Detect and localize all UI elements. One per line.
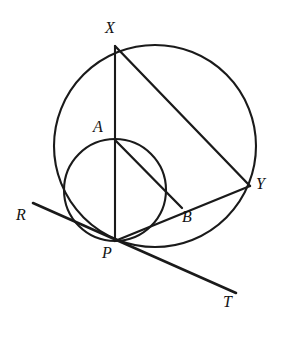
geometry-canvas bbox=[0, 0, 287, 340]
geometry-figure: X A Y B R P T bbox=[0, 0, 287, 340]
point-label-a: A bbox=[93, 119, 103, 135]
outer-circle bbox=[54, 45, 256, 247]
point-label-t: T bbox=[223, 294, 232, 310]
point-label-y: Y bbox=[256, 176, 265, 192]
tangent-line-rt bbox=[33, 203, 236, 293]
point-label-r: R bbox=[16, 207, 26, 223]
point-label-x: X bbox=[105, 20, 115, 36]
point-label-b: B bbox=[182, 209, 192, 225]
point-label-p: P bbox=[102, 245, 112, 261]
segment-xy bbox=[115, 46, 250, 186]
